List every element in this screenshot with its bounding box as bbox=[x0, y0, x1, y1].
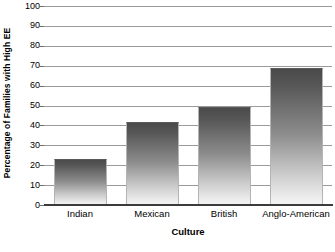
y-axis-tick-label: 20 bbox=[14, 161, 40, 170]
y-axis-tick-label: 50 bbox=[14, 101, 40, 110]
x-axis-title: Culture bbox=[44, 226, 332, 237]
y-axis-tick-label: 40 bbox=[14, 121, 40, 130]
y-axis-title-text: Percentage of Families with High EE bbox=[2, 27, 12, 177]
bar bbox=[270, 68, 323, 205]
y-axis-tick-label: 80 bbox=[14, 41, 40, 50]
y-axis-tick-labels: 1009080706050403020100 bbox=[14, 6, 42, 205]
y-axis-tick-label: 0 bbox=[14, 201, 40, 210]
y-axis-tick-label: 90 bbox=[14, 21, 40, 30]
y-axis-tick-label: 10 bbox=[14, 181, 40, 190]
bar bbox=[54, 159, 107, 205]
bars-layer bbox=[44, 6, 332, 205]
plot-area bbox=[44, 6, 332, 205]
y-axis-tick-label: 60 bbox=[14, 81, 40, 90]
y-axis-tick-label: 100 bbox=[14, 2, 40, 11]
bar bbox=[126, 122, 179, 205]
y-axis-title: Percentage of Families with High EE bbox=[0, 0, 14, 205]
y-axis-tick-label: 70 bbox=[14, 61, 40, 70]
x-axis-tick-labels: IndianMexicanBritishAnglo-American bbox=[44, 208, 332, 224]
x-axis-tick-label: Anglo-American bbox=[254, 208, 335, 220]
x-axis-line bbox=[44, 204, 333, 206]
y-axis-tick-label: 30 bbox=[14, 141, 40, 150]
bar-chart: Percentage of Families with High EE 1009… bbox=[0, 0, 335, 252]
bar bbox=[198, 107, 251, 206]
